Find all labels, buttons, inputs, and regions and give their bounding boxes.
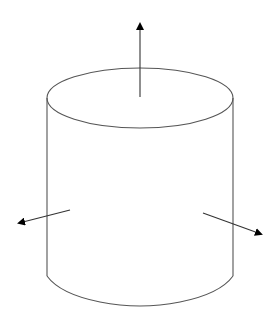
left-normal-arrow	[19, 210, 70, 223]
diagram-canvas	[0, 0, 278, 322]
right-normal-arrow	[203, 213, 261, 234]
cylinder-bottom-arc	[47, 276, 233, 306]
cylinder-diagram	[0, 0, 278, 322]
